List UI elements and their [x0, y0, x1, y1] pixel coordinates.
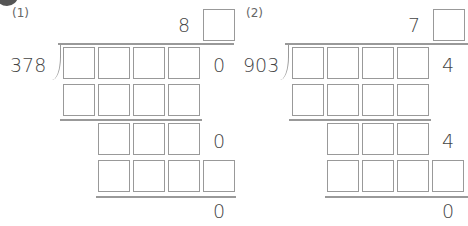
product2-box[interactable]: [98, 160, 130, 192]
dividend-box[interactable]: [397, 47, 429, 79]
product-box[interactable]: [397, 84, 429, 116]
difference-box[interactable]: [133, 123, 165, 155]
remainder: 0: [442, 200, 454, 222]
division-bracket: [280, 44, 289, 80]
product-box[interactable]: [327, 84, 359, 116]
subtraction-line: [289, 119, 431, 121]
quotient-digit: 8: [178, 14, 190, 36]
product2-box[interactable]: [203, 160, 235, 192]
dividend-box[interactable]: [168, 47, 200, 79]
product-box[interactable]: [168, 84, 200, 116]
subtraction-line: [325, 196, 468, 198]
product-box[interactable]: [292, 84, 324, 116]
dividend-box[interactable]: [292, 47, 324, 79]
product2-box[interactable]: [168, 160, 200, 192]
dividend-box[interactable]: [362, 47, 394, 79]
dividend-box[interactable]: [98, 47, 130, 79]
difference-box[interactable]: [397, 123, 429, 155]
product-box[interactable]: [133, 84, 165, 116]
problem-label: (2): [246, 6, 263, 20]
product2-box[interactable]: [133, 160, 165, 192]
difference-box[interactable]: [327, 123, 359, 155]
division-bar: [285, 43, 468, 45]
subtraction-line: [96, 196, 236, 198]
quotient-digit: 7: [408, 14, 420, 36]
quotient-box[interactable]: [203, 9, 235, 41]
dividend-box[interactable]: [133, 47, 165, 79]
product2-box[interactable]: [362, 160, 394, 192]
step2-last-digit: 4: [442, 130, 454, 152]
product2-box[interactable]: [432, 160, 464, 192]
quotient-box[interactable]: [433, 9, 465, 41]
product2-box[interactable]: [327, 160, 359, 192]
remainder: 0: [213, 200, 225, 222]
subtraction-line: [60, 119, 202, 121]
divisor: 903: [243, 54, 279, 76]
dividend-box[interactable]: [327, 47, 359, 79]
division-bar: [58, 43, 234, 45]
difference-box[interactable]: [362, 123, 394, 155]
problem-label: (1): [12, 6, 29, 20]
product2-box[interactable]: [397, 160, 429, 192]
difference-box[interactable]: [98, 123, 130, 155]
difference-box[interactable]: [168, 123, 200, 155]
step2-last-digit: 0: [213, 130, 225, 152]
product-box[interactable]: [63, 84, 95, 116]
dividend-last-digit: 0: [213, 54, 225, 76]
divisor: 378: [10, 54, 46, 76]
division-bracket: [52, 44, 61, 80]
dividend-last-digit: 4: [442, 54, 454, 76]
dividend-box[interactable]: [63, 47, 95, 79]
product-box[interactable]: [98, 84, 130, 116]
product-box[interactable]: [362, 84, 394, 116]
